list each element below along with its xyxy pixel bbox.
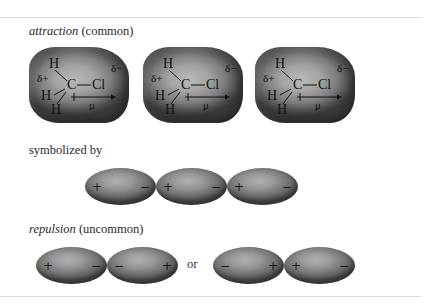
bond-lines (255, 47, 355, 123)
negative-pole: − (140, 180, 150, 192)
dipole-ellipse: + − (284, 247, 355, 284)
delta-plus: δ+ (37, 73, 48, 84)
left-pole: − (220, 259, 230, 271)
right-pole: − (339, 259, 349, 271)
dipole-ellipse: + − (85, 168, 156, 205)
negative-pole: − (282, 180, 292, 192)
carbon: C (293, 78, 302, 92)
hydrogen-top: H (49, 57, 59, 71)
chloromethane-molecule-1: H δ+ C Cl δ− H H μ (29, 47, 129, 123)
delta-plus: δ+ (151, 73, 162, 84)
hydrogen-bottom: H (277, 103, 287, 117)
chloromethane-molecule-3: H δ+ C Cl δ− H H μ (255, 47, 355, 123)
bottom-divider (0, 296, 422, 297)
hydrogen-mid: H (155, 89, 165, 103)
repulsion-label-italic: repulsion (29, 222, 76, 236)
carbon: C (67, 78, 76, 92)
hydrogen-mid: H (41, 89, 51, 103)
repulsion-label-rest: (uncommon) (76, 222, 144, 236)
symbolized-label: symbolized by (29, 143, 102, 158)
dipole-moment-mu: μ (315, 100, 321, 111)
chloromethane-molecule-2: H δ+ C Cl δ− H H μ (143, 47, 243, 123)
delta-minus: δ− (337, 63, 348, 74)
bond-lines (143, 47, 243, 123)
dipole-ellipse: − + (213, 247, 284, 284)
or-separator: or (187, 257, 197, 272)
dipole-ellipse: − + (107, 247, 178, 284)
dipole-moment-mu: μ (89, 100, 95, 111)
attraction-label-italic: attraction (29, 24, 78, 38)
dipole-moment-mu: μ (203, 100, 209, 111)
right-pole: + (162, 259, 172, 271)
positive-pole: + (234, 180, 244, 192)
dipole-ellipse: + − (156, 168, 227, 205)
attraction-label-rest: (common) (78, 24, 133, 38)
attraction-label: attraction (common) (29, 24, 134, 39)
right-pole: + (268, 259, 278, 271)
repulsion-label: repulsion (uncommon) (29, 222, 143, 237)
left-pole: + (291, 259, 301, 271)
delta-minus: δ− (225, 63, 236, 74)
positive-pole: + (92, 180, 102, 192)
carbon: C (181, 78, 190, 92)
positive-pole: + (163, 180, 173, 192)
chlorine: Cl (318, 78, 331, 92)
negative-pole: − (211, 180, 221, 192)
left-pole: − (114, 259, 124, 271)
hydrogen-mid: H (267, 89, 277, 103)
delta-minus: δ− (111, 63, 122, 74)
right-pole: − (91, 259, 101, 271)
dipole-ellipse: + − (36, 247, 107, 284)
hydrogen-bottom: H (165, 103, 175, 117)
chlorine: Cl (206, 78, 219, 92)
left-pole: + (43, 259, 53, 271)
hydrogen-top: H (275, 57, 285, 71)
chlorine: Cl (92, 78, 105, 92)
delta-plus: δ+ (263, 73, 274, 84)
dipole-ellipse: + − (227, 168, 298, 205)
bond-lines (29, 47, 129, 123)
top-divider (0, 17, 422, 18)
hydrogen-bottom: H (51, 103, 61, 117)
hydrogen-top: H (163, 57, 173, 71)
